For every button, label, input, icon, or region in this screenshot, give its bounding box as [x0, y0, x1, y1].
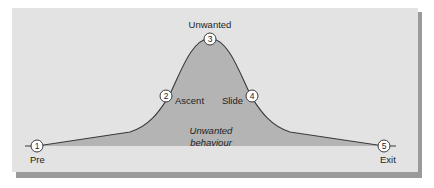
point-5-number: 5 — [382, 141, 387, 151]
point-1-marker: 1 — [31, 140, 43, 152]
point-4-label: Slide — [222, 95, 243, 106]
point-1-number: 1 — [35, 141, 40, 151]
point-3-marker: 3 — [204, 33, 216, 45]
point-1-label: Pre — [30, 154, 45, 165]
point-5-marker: 5 — [378, 140, 390, 152]
point-2-label: Ascent — [175, 95, 204, 106]
point-2-number: 2 — [164, 91, 169, 101]
point-4-number: 4 — [250, 91, 255, 101]
point-4-marker: 4 — [246, 90, 258, 102]
point-3-number: 3 — [208, 34, 213, 44]
area-label-line2: behaviour — [190, 137, 233, 148]
behaviour-curve-diagram: 1 Pre 2 Ascent 3 Unwanted 4 Slide 5 Exit… — [0, 0, 434, 188]
point-2-marker: 2 — [160, 90, 172, 102]
point-5-label: Exit — [380, 154, 396, 165]
area-label-line1: Unwanted — [190, 125, 233, 136]
point-3-label: Unwanted — [189, 19, 232, 30]
